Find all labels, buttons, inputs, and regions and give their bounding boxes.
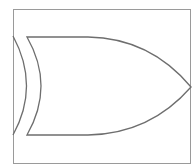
diagram-frame — [14, 10, 191, 164]
xor-input-back-curve — [13, 36, 27, 135]
xor-gate-diagram — [0, 0, 193, 168]
xor-gate-body — [27, 37, 191, 135]
